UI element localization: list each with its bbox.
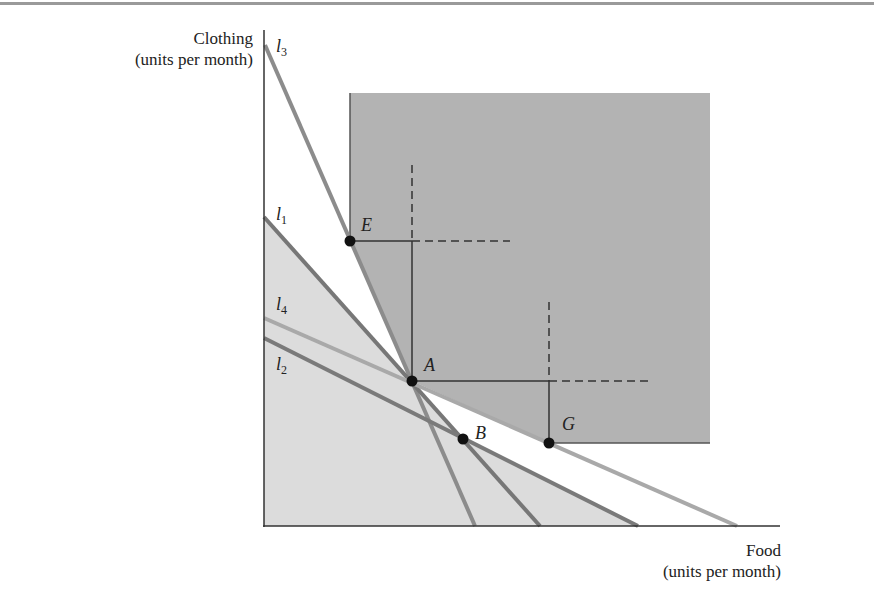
label-point-G: G [562,414,575,435]
x-axis-label-units: (units per month) [663,561,781,582]
point-B [458,434,469,445]
indifference-budget-diagram [0,0,874,612]
label-l2-sub: 2 [281,363,287,377]
point-G [544,438,555,449]
label-point-E: E [361,215,372,236]
label-l1-sub: 1 [281,213,287,227]
label-point-B: B [475,423,486,444]
point-E [345,236,356,247]
label-l3: l3 [276,36,287,60]
y-axis-label: Clothing (units per month) [135,28,253,70]
label-l4: l4 [276,294,287,318]
label-point-A: A [424,355,435,376]
label-l3-sub: 3 [281,45,287,59]
point-A [407,376,418,387]
x-axis-label: Food (units per month) [663,540,781,582]
label-l2: l2 [276,354,287,378]
label-l1: l1 [276,204,287,228]
y-axis-label-units: (units per month) [135,49,253,70]
label-l4-sub: 4 [281,303,287,317]
x-axis-label-title: Food [663,540,781,561]
y-axis-label-title: Clothing [135,28,253,49]
